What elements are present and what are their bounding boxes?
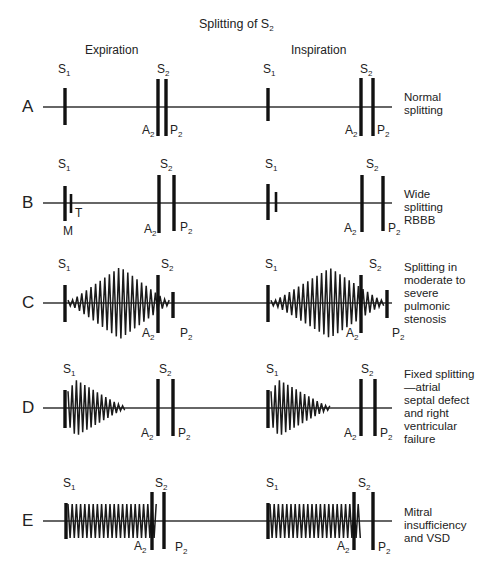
- label-s2-row-b-1-text: S: [366, 157, 374, 171]
- label-s1-row-c-text: S: [265, 257, 273, 271]
- label-p2-row-e-text: P: [175, 540, 183, 554]
- label-p2-row-b: P2: [388, 222, 400, 235]
- label-s2-row-a-1: S2: [360, 63, 372, 76]
- label-s1-row-b-subscript: 1: [66, 164, 70, 173]
- label-s2-row-c-0-text: S: [161, 257, 169, 271]
- label-s2-row-e-1-subscript: 2: [366, 483, 370, 492]
- label-s1-row-e-subscript: 1: [274, 483, 278, 492]
- row-description-b: Wide splitting RBBB: [404, 188, 443, 227]
- label-p2-row-d-text: P: [380, 426, 388, 440]
- label-p2-row-d-text: P: [178, 426, 186, 440]
- label-s1-row-c: S1: [58, 258, 70, 271]
- label-p2-row-a-text: P: [170, 123, 178, 137]
- label-p2-row-a-subscript: 2: [178, 130, 182, 139]
- label-s2-row-d-1: S2: [361, 363, 373, 376]
- label-a2-row-c: A2: [142, 327, 154, 340]
- s2-splitting-diagram: Splitting of S2 Expiration Inspiration S…: [0, 0, 488, 571]
- label-p2-row-c: P2: [392, 327, 404, 340]
- label-a2-row-c: A2: [346, 327, 358, 340]
- label-s1-row-b: S1: [58, 158, 70, 171]
- label-s1-row-a-subscript: 1: [66, 69, 70, 78]
- label-s1-row-d: S1: [266, 363, 278, 376]
- label-s1-row-a-text: S: [58, 62, 66, 76]
- label-s1-row-b-text: S: [265, 157, 273, 171]
- label-s2-row-e-1: S2: [358, 477, 370, 490]
- label-a2-row-b-subscript: 2: [152, 229, 156, 238]
- label-s1-row-a-text: S: [263, 62, 271, 76]
- label-s2-row-c-1-text: S: [369, 257, 377, 271]
- label-p2-row-b: P2: [180, 221, 192, 234]
- label-s2-row-a-1-subscript: 2: [368, 69, 372, 78]
- label-p2-row-e: P2: [378, 541, 390, 554]
- label-s2-row-c-1: S2: [369, 258, 381, 271]
- row-label-e: E: [22, 512, 33, 529]
- label-a2-row-a-subscript: 2: [353, 130, 357, 139]
- label-a2-row-c-subscript: 2: [150, 333, 154, 342]
- label-t-row-b: T: [75, 207, 82, 220]
- label-p2-row-d: P2: [380, 427, 392, 440]
- label-s2-row-d-0-text: S: [159, 362, 167, 376]
- label-a2-row-e-text: A: [134, 539, 142, 553]
- label-a2-row-a-text: A: [142, 123, 150, 137]
- label-s1-row-d-text: S: [63, 362, 71, 376]
- label-s2-row-a-1-text: S: [360, 62, 368, 76]
- label-m-row-b-text: M: [63, 224, 73, 238]
- label-p2-row-b-subscript: 2: [188, 227, 192, 236]
- label-s2-row-b-0-subscript: 2: [168, 164, 172, 173]
- label-s2-row-a-0-text: S: [157, 62, 165, 76]
- label-p2-row-c-subscript: 2: [400, 333, 404, 342]
- label-a2-row-b-text: A: [344, 221, 352, 235]
- label-a2-row-b-subscript: 2: [352, 228, 356, 237]
- row-description-c: Splitting in moderate to severe pulmonic…: [404, 261, 465, 326]
- label-p2-row-d-subscript: 2: [186, 433, 190, 442]
- label-s1-row-b-subscript: 1: [273, 164, 277, 173]
- label-a2-row-d: A2: [344, 427, 356, 440]
- label-s1-row-e-text: S: [63, 476, 71, 490]
- row-label-b: B: [22, 194, 33, 211]
- label-s2-row-c-1-subscript: 2: [377, 264, 381, 273]
- label-s2-row-d-1-subscript: 2: [369, 369, 373, 378]
- label-p2-row-d: P2: [178, 427, 190, 440]
- row-description-c-text: Splitting in moderate to severe pulmonic…: [404, 261, 465, 325]
- phase-label-expiration: Expiration: [85, 44, 138, 57]
- label-a2-row-b: A2: [344, 222, 356, 235]
- label-s1-row-a: S1: [58, 63, 70, 76]
- label-s2-row-e-0: S2: [155, 477, 167, 490]
- label-a2-row-e-text: A: [337, 539, 345, 553]
- phase-label-inspiration: Inspiration: [291, 44, 346, 57]
- label-p2-row-b-subscript: 2: [396, 228, 400, 237]
- label-s1-row-c-text: S: [58, 257, 66, 271]
- label-p2-row-a-subscript: 2: [385, 130, 389, 139]
- label-p2-row-c-text: P: [392, 326, 400, 340]
- row-label-d-text: D: [22, 398, 34, 417]
- label-a2-row-d-subscript: 2: [149, 433, 153, 442]
- label-a2-row-a: A2: [345, 124, 357, 137]
- row-description-e: Mitral insufficiency and VSD: [404, 506, 466, 545]
- label-s2-row-b-1: S2: [366, 158, 378, 171]
- label-a2-row-d-text: A: [141, 426, 149, 440]
- label-p2-row-e-subscript: 2: [386, 547, 390, 556]
- label-s2-row-d-0: S2: [159, 363, 171, 376]
- row-description-b-text: Wide splitting RBBB: [404, 188, 443, 226]
- label-s1-row-a: S1: [263, 63, 275, 76]
- label-s1-row-b: S1: [265, 158, 277, 171]
- label-a2-row-a: A2: [142, 124, 154, 137]
- row-description-d: Fixed splitting —atrial septal defect an…: [404, 368, 474, 446]
- label-s2-row-b-0: S2: [160, 158, 172, 171]
- label-s2-row-a-0: S2: [157, 63, 169, 76]
- row-label-e-text: E: [22, 511, 33, 530]
- label-a2-row-c-subscript: 2: [354, 333, 358, 342]
- label-p2-row-e-subscript: 2: [183, 547, 187, 556]
- label-s2-row-b-1-subscript: 2: [374, 164, 378, 173]
- murmur-diamond-row-c-1: [271, 269, 384, 338]
- label-p2-row-a: P2: [377, 124, 389, 137]
- label-p2-row-a: P2: [170, 124, 182, 137]
- diagram-title-text: Splitting of S: [199, 17, 269, 31]
- label-s2-row-e-1-text: S: [358, 476, 366, 490]
- label-a2-row-a-subscript: 2: [150, 130, 154, 139]
- label-s1-row-e-subscript: 1: [71, 483, 75, 492]
- label-p2-row-d-subscript: 2: [388, 433, 392, 442]
- row-description-a-text: Normal splitting: [404, 91, 443, 116]
- label-s2-row-d-1-text: S: [361, 362, 369, 376]
- murmur-plateau-row-e-1: [270, 504, 360, 538]
